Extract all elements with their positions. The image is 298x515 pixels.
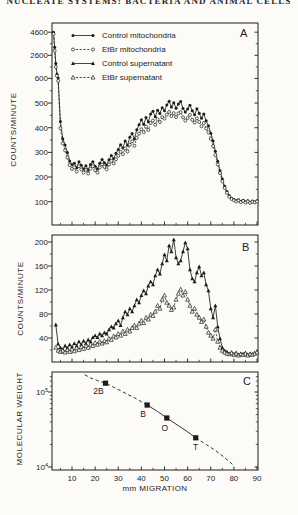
- data-point-marker: [73, 162, 76, 165]
- data-point-marker: [175, 116, 178, 119]
- data-point-marker: [114, 158, 117, 161]
- marker-protein-2b: [103, 381, 108, 386]
- x-tick-label: 30: [114, 474, 123, 483]
- data-point-marker: [77, 160, 80, 163]
- legend-marker-filled-triangle-icon: [68, 59, 98, 68]
- data-point-marker: [124, 147, 127, 150]
- data-point-marker: [135, 297, 139, 301]
- data-point-marker: [138, 132, 141, 135]
- data-point-marker: [105, 168, 108, 171]
- series-control-supernatant: [54, 237, 259, 356]
- data-point-marker: [158, 121, 161, 124]
- legend-marker-open-circle-icon: [68, 45, 98, 54]
- data-point-marker: [256, 200, 259, 203]
- data-point-marker: [169, 249, 173, 253]
- data-point-marker: [202, 112, 205, 115]
- data-point-marker: [145, 125, 148, 128]
- data-point-marker: [56, 342, 60, 346]
- data-point-marker: [82, 339, 86, 343]
- data-point-marker: [183, 290, 187, 294]
- y-tick-label: 300: [35, 148, 49, 157]
- data-point-marker: [195, 107, 198, 110]
- data-point-marker: [188, 303, 192, 307]
- x-tick-label: 60: [183, 474, 192, 483]
- legend-marker-filled-circle-icon: [68, 31, 98, 40]
- data-point-marker: [207, 124, 210, 127]
- series-etbr-supernatant: [54, 287, 259, 357]
- data-point-marker: [202, 317, 206, 321]
- legend-item: EtBr mitochondria: [68, 42, 176, 56]
- x-tick-label: 90: [253, 474, 262, 483]
- legend-label: EtBr mitochondria: [102, 45, 166, 54]
- data-point-marker: [139, 293, 143, 297]
- data-point-marker: [112, 162, 115, 165]
- data-point-marker: [61, 142, 64, 145]
- data-point-marker: [96, 171, 99, 174]
- data-point-marker: [142, 131, 145, 134]
- data-point-marker: [121, 329, 125, 333]
- data-point-marker: [182, 116, 185, 119]
- data-point-marker: [161, 106, 164, 109]
- data-point-marker: [98, 332, 102, 336]
- data-point-marker: [64, 149, 67, 152]
- x-tick-label: 80: [229, 474, 238, 483]
- data-point-marker: [172, 305, 176, 309]
- panel-label-a: A: [240, 27, 247, 39]
- data-point-marker: [154, 123, 157, 126]
- data-point-marker: [188, 104, 191, 107]
- data-point-marker: [225, 191, 228, 194]
- y-axis-label-panel-b: COUNTS/MINUTE: [16, 259, 25, 339]
- data-point-marker: [184, 119, 187, 122]
- data-point-marker: [193, 113, 196, 116]
- data-point-marker: [132, 303, 136, 307]
- y-tick-label: 40: [39, 334, 48, 343]
- x-tick-label: 40: [137, 474, 146, 483]
- data-point-marker: [191, 118, 194, 121]
- data-point-marker: [52, 32, 55, 35]
- legend-label: EtBr supernatant: [102, 73, 162, 82]
- data-point-marker: [86, 338, 90, 342]
- data-point-marker: [131, 132, 134, 135]
- data-point-marker: [117, 154, 120, 157]
- data-point-marker: [114, 152, 117, 155]
- data-point-marker: [174, 297, 178, 301]
- data-point-marker: [87, 172, 90, 175]
- legend-marker: [72, 48, 75, 51]
- calibration-curve-dashed: [196, 438, 233, 465]
- data-point-marker: [186, 107, 189, 110]
- data-point-marker: [156, 303, 160, 307]
- data-point-marker: [163, 109, 166, 112]
- data-point-marker: [54, 323, 58, 327]
- data-point-marker: [73, 166, 76, 169]
- data-point-marker: [206, 330, 210, 334]
- legend-marker: [92, 48, 95, 51]
- data-point-marker: [202, 122, 205, 125]
- data-point-marker: [55, 74, 58, 77]
- data-point-marker: [186, 117, 189, 120]
- data-point-marker: [193, 121, 196, 124]
- data-point-marker: [182, 107, 185, 110]
- data-point-marker: [184, 110, 187, 113]
- data-point-marker: [93, 333, 97, 337]
- data-point-marker: [216, 324, 220, 328]
- y-tick-label: 160: [35, 262, 49, 271]
- data-point-marker: [170, 115, 173, 118]
- data-point-marker: [205, 127, 208, 130]
- data-point-marker: [206, 288, 210, 292]
- y-axis-label-panel-a: COUNTS/MINUTE: [9, 85, 18, 175]
- data-point-marker: [138, 123, 141, 126]
- data-point-marker: [110, 159, 113, 162]
- marker-protein-o: [164, 415, 169, 420]
- data-point-marker: [68, 164, 71, 167]
- data-point-marker: [195, 270, 199, 274]
- data-point-marker: [121, 315, 125, 319]
- data-point-marker: [198, 121, 201, 124]
- y-tick-label: 600: [35, 74, 49, 83]
- data-point-marker: [57, 79, 60, 82]
- data-point-marker: [221, 180, 224, 183]
- data-point-marker: [165, 258, 169, 262]
- data-point-marker: [149, 112, 152, 115]
- data-point-marker: [84, 164, 87, 167]
- data-point-marker: [156, 109, 159, 112]
- data-point-marker: [158, 112, 161, 115]
